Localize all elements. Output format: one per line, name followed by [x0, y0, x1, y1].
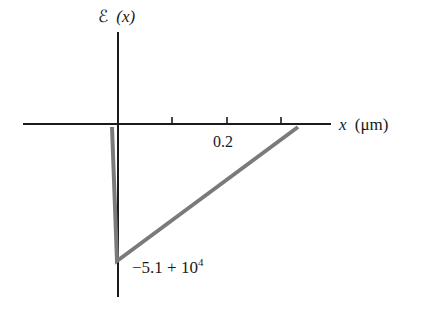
field-curve [112, 127, 298, 261]
x-tick-label: 0.2 [213, 133, 233, 150]
x-axis-label: x (μm) [338, 115, 388, 134]
minimum-value-label: −5.1 + 104 [132, 256, 204, 277]
y-axis-label: ℰ (x) [98, 7, 135, 26]
field-diagram: ℰ (x) x (μm) 0.2 −5.1 + 104 [0, 0, 431, 309]
